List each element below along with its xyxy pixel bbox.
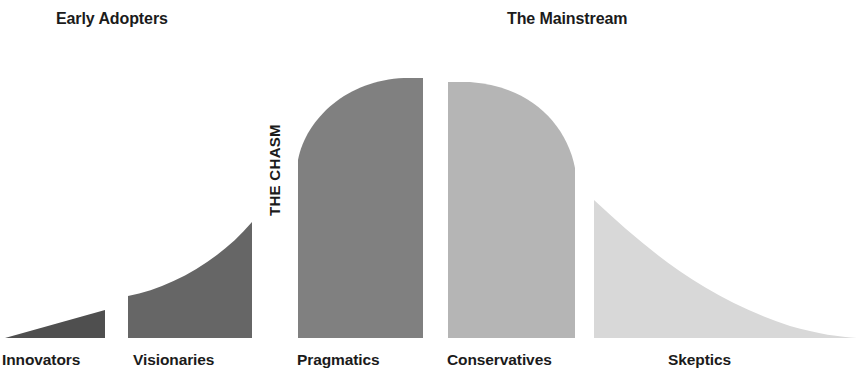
adoption-curve-svg — [0, 0, 857, 345]
category-label-row: Innovators Visionaries Pragmatics Conser… — [0, 350, 857, 374]
curve-segment-visionaries — [128, 222, 252, 338]
adoption-curve-diagram: Early Adopters The Mainstream THE CHASM … — [0, 0, 857, 378]
category-label-skeptics: Skeptics — [668, 350, 731, 370]
category-label-visionaries: Visionaries — [133, 350, 214, 370]
curve-segment-innovators — [5, 310, 105, 338]
chasm-label: THE CHASM — [265, 80, 285, 216]
category-label-innovators: Innovators — [2, 350, 80, 370]
curve-segment-conservatives — [448, 82, 575, 338]
curve-segment-skeptics — [594, 200, 857, 338]
category-label-conservatives: Conservatives — [447, 350, 552, 370]
category-label-pragmatics: Pragmatics — [297, 350, 380, 370]
adoption-curve-plot — [0, 0, 857, 345]
curve-segment-pragmatics — [298, 78, 423, 338]
